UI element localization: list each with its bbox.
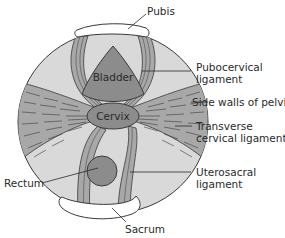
bladder-label: Bladder: [93, 71, 134, 83]
side-walls-label: Side walls of pelvis: [192, 96, 285, 108]
cervix-label: Cervix: [96, 110, 129, 122]
rectum: [87, 156, 117, 186]
transverse-label-line1: Transverse: [195, 120, 253, 132]
transverse-label-line2: cervical ligament: [196, 132, 285, 144]
pubocervical-label-line1: Pubocervical: [196, 61, 263, 73]
rectum-label: Rectum: [4, 177, 44, 189]
sacrum-label: Sacrum: [125, 223, 165, 235]
uterosacral-label-line1: Uterosacral: [196, 166, 256, 178]
pelvic-ligaments-diagram: Bladder Cervix Pubis Pubocervical ligame…: [0, 0, 285, 238]
uterosacral-label-line2: ligament: [196, 178, 242, 190]
pubocervical-label-line2: ligament: [196, 73, 242, 85]
pubis-label: Pubis: [147, 5, 175, 17]
